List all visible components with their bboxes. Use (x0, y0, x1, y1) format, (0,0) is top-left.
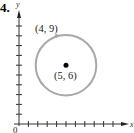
chart-figure: 4. y x 0 (4, 9) (5, 6) (0, 0, 134, 133)
y-axis-label: y (15, 0, 20, 9)
center-label-5-6: (5, 6) (54, 70, 77, 82)
origin-label: 0 (13, 125, 18, 133)
y-axis-arrow-icon (17, 10, 21, 18)
x-axis-arrow-icon (121, 122, 129, 126)
point-label-4-9: (4, 9) (35, 23, 58, 35)
problem-number: 4. (0, 0, 10, 15)
center-point (64, 63, 69, 68)
point-on-circle (55, 34, 59, 38)
x-axis-label: x (129, 120, 134, 129)
